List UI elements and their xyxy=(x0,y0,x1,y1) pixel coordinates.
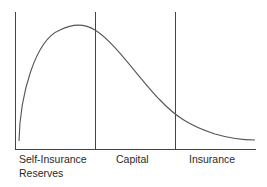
label-line-1: Self-Insurance xyxy=(19,152,87,166)
label-self-insurance-reserves: Self-Insurance Reserves xyxy=(19,152,87,180)
label-insurance: Insurance xyxy=(189,152,235,166)
distribution-diagram: Self-Insurance Reserves Capital Insuranc… xyxy=(0,0,267,187)
label-line-2: Reserves xyxy=(19,166,87,180)
label-capital: Capital xyxy=(116,152,149,166)
distribution-curve xyxy=(19,25,255,141)
